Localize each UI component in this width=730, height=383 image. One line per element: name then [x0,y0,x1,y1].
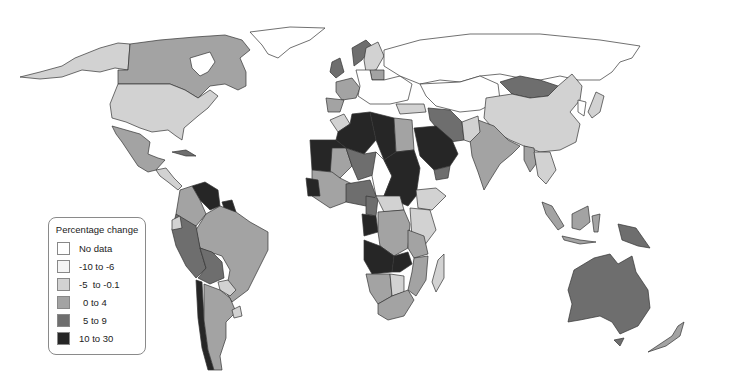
legend-item-10-to-30: 10 to 30 [57,332,143,346]
region-greenland [250,27,325,58]
legend-swatch [57,296,70,309]
region-madagascar [432,254,444,292]
region-gabon-congo [362,214,378,236]
legend-title: Percentage change [49,224,145,235]
region-central-america [156,168,182,190]
region-senegal [306,178,320,196]
region-thailand-vietnam [534,152,556,184]
legend-item-5-to-9: 5 to 9 [57,314,143,328]
region-ethiopia [416,188,446,210]
region-egypt [394,118,414,152]
legend-item-minus10-to-minus6: -10 to -6 [57,260,143,274]
legend-label: 5 to 9 [83,314,107,327]
region-tasmania [614,338,624,346]
map-legend: Percentage change No data -10 to -6 -5 t… [48,217,146,355]
legend-item-minus5-to-minus0.1: -5 to -0.1 [57,278,143,292]
region-ecuador [172,216,182,230]
region-cuba [172,150,196,156]
region-new-zealand [648,322,684,352]
legend-item-0-to-4: 0 to 4 [57,296,143,310]
legend-label: 10 to 30 [79,332,113,345]
region-png [618,224,650,248]
region-australia [568,254,650,334]
region-myanmar [524,146,536,172]
region-java [562,236,596,244]
region-france [336,78,360,100]
legend-swatch [57,332,70,345]
region-spain [326,98,344,112]
region-borneo [572,206,590,230]
legend-swatch [57,278,70,291]
region-cameroon [366,196,378,216]
legend-label: No data [79,242,112,255]
legend-swatch [57,260,70,273]
region-sumatra [542,202,564,230]
legend-item-no-data: No data [57,242,143,256]
region-mexico [112,126,165,172]
legend-swatch [57,242,70,255]
region-uk [330,58,344,78]
region-car [376,196,404,212]
region-turkey [396,104,426,114]
region-poland [370,70,384,80]
region-korea [578,100,586,116]
region-sulawesi [592,214,600,232]
region-alaska [20,43,130,79]
legend-label: -10 to -6 [79,260,114,273]
legend-swatch [57,314,70,327]
legend-label: -5 to -0.1 [79,278,120,291]
region-russia [384,34,640,84]
region-japan [588,92,604,118]
legend-label: 0 to 4 [83,296,107,309]
